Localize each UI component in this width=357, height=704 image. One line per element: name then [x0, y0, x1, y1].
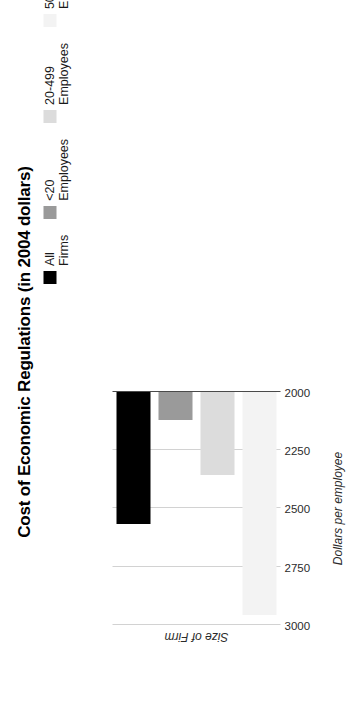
gridline: [112, 624, 280, 625]
category-axis-title: Size of Firm: [112, 626, 280, 644]
bar-500-employees: [242, 392, 276, 615]
legend-entry: <20 Employees: [42, 139, 70, 219]
legend-label: All Firms: [42, 235, 70, 266]
legend-label: 20-499 Employees: [42, 43, 70, 105]
bar-20-employees: [158, 392, 192, 420]
bar-20-499-employees: [200, 392, 234, 475]
value-axis-tick: 2500: [284, 478, 296, 504]
chart-legend: All Firms<20 Employees20-499 Employees50…: [42, 0, 70, 284]
legend-swatch-icon: [43, 271, 56, 284]
value-axis-tick-label: 2000: [284, 387, 310, 399]
chart-figure-rotator: Cost of Economic Regulations (in 2004 do…: [0, 0, 357, 704]
value-axis-tick-label: 3000: [284, 620, 310, 632]
value-axis-tick: 2750: [284, 536, 296, 562]
value-axis-tick-label: 2500: [284, 504, 310, 516]
value-axis-tick-label: 2750: [284, 562, 310, 574]
value-axis-tick-label: 2250: [284, 445, 310, 457]
plot-area: [112, 392, 280, 625]
bar-chart-figure: Cost of Economic Regulations (in 2004 do…: [0, 0, 357, 704]
value-axis-tick: 2250: [284, 420, 296, 446]
legend-entry: 20-499 Employees: [42, 43, 70, 123]
value-axis-tick: 2000: [284, 361, 296, 387]
legend-label: <20 Employees: [42, 139, 70, 201]
bar-all-firms: [116, 392, 150, 524]
legend-swatch-icon: [43, 110, 56, 123]
legend-swatch-icon: [43, 14, 56, 27]
value-axis-tick: 3000: [284, 594, 296, 620]
legend-entry: All Firms: [42, 235, 70, 284]
legend-entry: 500+ Employees: [42, 0, 70, 27]
value-axis-title: Dollars per employee: [330, 392, 344, 625]
value-axis-tick-labels: 30002750250022502000: [284, 392, 330, 625]
chart-title: Cost of Economic Regulations (in 2004 do…: [14, 0, 34, 704]
legend-label: 500+ Employees: [42, 0, 70, 9]
legend-swatch-icon: [43, 206, 56, 219]
